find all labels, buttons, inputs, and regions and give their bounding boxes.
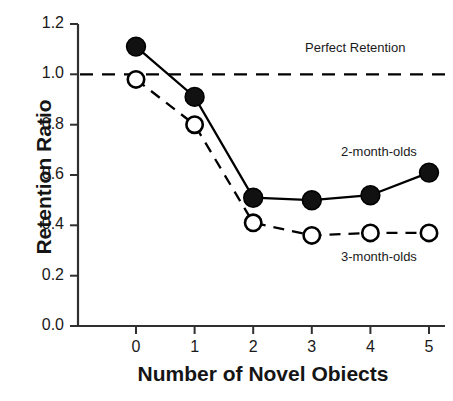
- y-axis-ticks: [70, 24, 78, 326]
- y-tick-label-6: 1.2: [18, 14, 64, 32]
- y-axis-title: Retention Ratio: [32, 47, 56, 307]
- chart-figure: 0.0 0.2 0.4 0.6 0.8 1.0 1.2 0 1 2 3 4 5 …: [0, 0, 453, 401]
- x-tick-label-0: 0: [124, 338, 148, 356]
- annotation-perfect-retention: Perfect Retention: [305, 40, 405, 55]
- annotation-3-month-olds: 3-month-olds: [341, 249, 417, 264]
- series-markers-2-month-olds: [127, 37, 439, 209]
- x-tick-label-2: 2: [241, 338, 265, 356]
- x-tick-label-5: 5: [417, 338, 441, 356]
- y-tick-label-0: 0.0: [18, 316, 64, 334]
- x-axis-ticks: [136, 326, 429, 334]
- x-tick-label-3: 3: [300, 338, 324, 356]
- series-line-2-month-olds: [136, 47, 429, 201]
- x-tick-label-1: 1: [183, 338, 207, 356]
- retention-ratio-line-chart: [0, 0, 453, 401]
- annotation-2-month-olds: 2-month-olds: [341, 144, 417, 159]
- x-tick-label-4: 4: [358, 338, 382, 356]
- x-axis-title: Number of Novel Obiects: [78, 362, 448, 386]
